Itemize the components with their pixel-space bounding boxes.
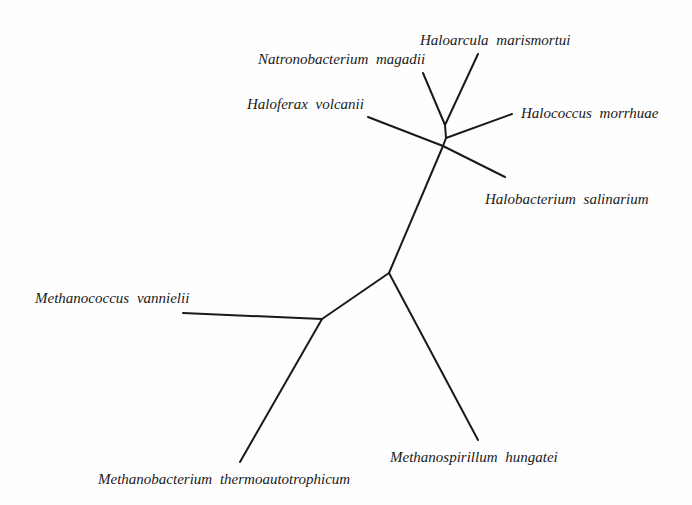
tree-branches	[0, 0, 692, 505]
internal-branch	[443, 138, 446, 146]
internal-branch	[322, 273, 389, 319]
leaf-label-methanococcus: Methanococcus vannielii	[35, 291, 189, 306]
leaf-label-methanospirillum: Methanospirillum hungatei	[390, 450, 558, 465]
branch-natronobacterium	[423, 73, 445, 125]
internal-branch	[389, 146, 443, 273]
branch-haloarcula	[445, 54, 478, 125]
branch-haloferax	[368, 117, 443, 146]
branch-methanobacterium	[240, 319, 322, 462]
leaf-label-methanobacterium: Methanobacterium thermoautotrophicum	[98, 472, 350, 487]
leaf-label-halococcus: Halococcus morrhuae	[521, 106, 658, 121]
leaf-label-haloferax: Haloferax volcanii	[247, 97, 364, 112]
leaf-label-halobacterium: Halobacterium salinarium	[485, 192, 649, 207]
branch-methanospirillum	[389, 273, 478, 440]
internal-branch	[445, 125, 446, 138]
phylogenetic-tree-figure: Natronobacterium magadii Haloarcula mari…	[0, 0, 692, 505]
leaf-label-natronobacterium: Natronobacterium magadii	[258, 52, 425, 67]
branch-methanococcus	[183, 313, 322, 319]
leaf-label-haloarcula: Haloarcula marismortui	[420, 33, 571, 48]
branch-halococcus	[446, 114, 512, 138]
branch-halobacterium	[443, 146, 505, 177]
